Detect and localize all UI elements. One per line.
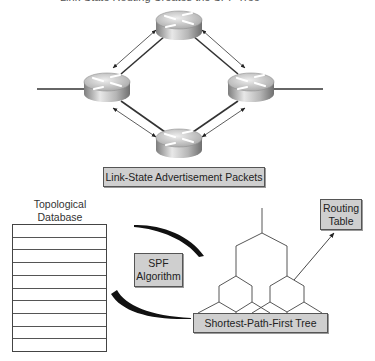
database-row — [13, 289, 106, 302]
link-left-bottom — [121, 101, 165, 132]
topological-database-table — [12, 224, 107, 352]
router-icon-left — [84, 73, 130, 102]
spf-tree-graph — [198, 208, 322, 313]
spf-tree-label: Shortest-Path-First Tree — [193, 313, 328, 333]
database-row — [13, 250, 106, 263]
database-row — [13, 276, 106, 289]
database-title: Topological Database — [14, 198, 106, 223]
spf-algorithm-line1: SPF — [148, 257, 168, 270]
router-icon-bottom — [156, 129, 202, 158]
arrow-to-routing-table — [294, 233, 334, 280]
database-row — [13, 263, 106, 276]
database-title-line1: Topological — [14, 198, 106, 211]
routing-table-box: Routing Table — [320, 199, 362, 230]
spf-algorithm-line2: Algorithm — [136, 270, 180, 283]
router-icon-top — [156, 11, 202, 40]
spf-algorithm-box: SPF Algorithm — [134, 253, 183, 287]
lsa-arrow-right-bottom — [202, 108, 245, 137]
database-title-line2: Database — [14, 211, 106, 224]
routing-table-line1: Routing — [323, 202, 359, 215]
database-row — [13, 301, 106, 314]
database-row — [13, 238, 106, 251]
routing-table-line2: Table — [328, 215, 353, 228]
router-icon-right — [228, 73, 274, 102]
database-row — [13, 327, 106, 340]
database-row — [13, 225, 106, 238]
database-row — [13, 339, 106, 351]
lsa-arrow-left-bottom — [113, 108, 156, 137]
lsa-label: Link-State Advertisement Packets — [103, 167, 265, 187]
link-right-bottom — [193, 101, 238, 132]
database-row — [13, 314, 106, 327]
swoosh-arrow-lower — [111, 290, 191, 319]
